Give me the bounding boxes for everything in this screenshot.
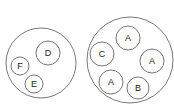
label-b: B xyxy=(135,83,141,93)
set-diagram: D F E A C A A B xyxy=(0,0,174,112)
label-a-top: A xyxy=(125,33,131,43)
label-c: C xyxy=(99,49,106,59)
label-d: D xyxy=(45,48,52,58)
label-f: F xyxy=(17,61,23,71)
label-a-right: A xyxy=(149,56,155,66)
label-a-bottom: A xyxy=(108,77,114,87)
right-outer-circle xyxy=(87,17,173,103)
label-e: E xyxy=(31,79,37,89)
